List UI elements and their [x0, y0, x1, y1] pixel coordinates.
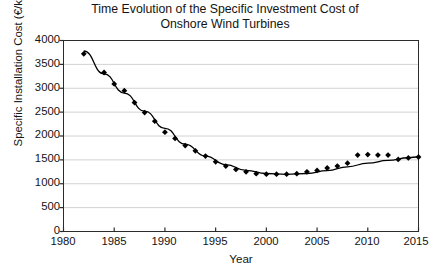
- y-tick-marks: [60, 41, 64, 232]
- data-point-markers: [81, 51, 422, 177]
- plot-area: [0, 0, 435, 274]
- x-tick-marks: [64, 228, 419, 232]
- gridlines: [64, 41, 419, 208]
- chart-figure: Time Evolution of the Specific Investmen…: [0, 0, 435, 274]
